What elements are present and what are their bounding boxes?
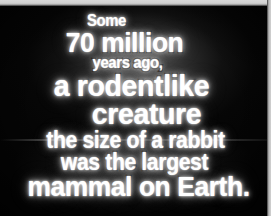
caption-line-5: creature (28, 99, 265, 128)
tracking-scanline (0, 139, 271, 141)
caption-line-6: the size of a rabbit (11, 129, 260, 151)
caption-line-8: mammal on Earth. (14, 173, 263, 200)
vignette-overlay (0, 0, 271, 216)
caption-line-4: a rodentlike (0, 71, 264, 100)
caption-block: Some 70 million years ago, a rodentlike … (0, 13, 271, 200)
frame-edge-top (0, 0, 271, 6)
caption-line-1: Some (0, 13, 259, 29)
caption-line-7: was the largest (9, 151, 260, 173)
title-card-screen: Some 70 million years ago, a rodentlike … (0, 0, 271, 216)
frame-edge-right (267, 0, 271, 216)
caption-line-2: 70 million (0, 29, 262, 56)
background-glow-upper (0, 0, 271, 184)
caption-line-3: years ago, (0, 55, 261, 71)
background-glow-lower (8, 120, 258, 216)
